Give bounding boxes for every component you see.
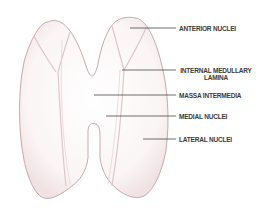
- label-massa-intermedia: MASSA INTERMEDIA: [179, 92, 241, 99]
- label-internal-medullary-lamina: INTERNAL MEDULLARY LAMINA: [178, 67, 254, 81]
- label-lateral-nuclei: LATERAL NUCLEI: [179, 136, 232, 143]
- label-internal-medullary-lamina-line2: LAMINA: [178, 74, 254, 81]
- label-medial-nuclei: MEDIAL NUCLEI: [179, 113, 227, 120]
- label-internal-medullary-lamina-line1: INTERNAL MEDULLARY: [178, 67, 254, 74]
- label-anterior-nuclei: ANTERIOR NUCLEI: [179, 25, 236, 32]
- thalamus-body: [20, 17, 169, 198]
